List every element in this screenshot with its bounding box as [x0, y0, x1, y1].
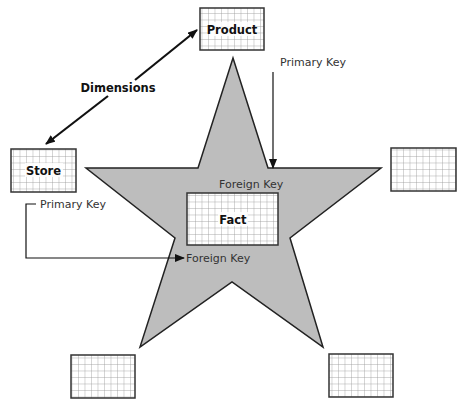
fact-table: Fact: [187, 193, 278, 245]
dimensions-label: Dimensions: [80, 81, 155, 95]
fact-foreign-key-top-label: Foreign Key: [219, 178, 284, 191]
store-table-label: Store: [26, 164, 61, 178]
right-dimension-table: [391, 148, 456, 191]
store-primary-key-label: Primary Key: [40, 198, 106, 211]
star-schema-diagram: Product Store Fact Dimensions Primary Ke…: [0, 0, 466, 408]
store-table: Store: [11, 149, 76, 192]
product-table-label: Product: [207, 23, 258, 37]
bottom-left-dimension-table: [71, 355, 135, 398]
bottom-right-dimension-table: [329, 354, 393, 397]
dimensions-arrow: Dimensions: [46, 30, 197, 144]
product-primary-key-label: Primary Key: [280, 56, 346, 69]
fact-foreign-key-left-label: Foreign Key: [186, 252, 251, 265]
fact-table-label: Fact: [219, 213, 247, 227]
product-table: Product: [200, 8, 264, 50]
